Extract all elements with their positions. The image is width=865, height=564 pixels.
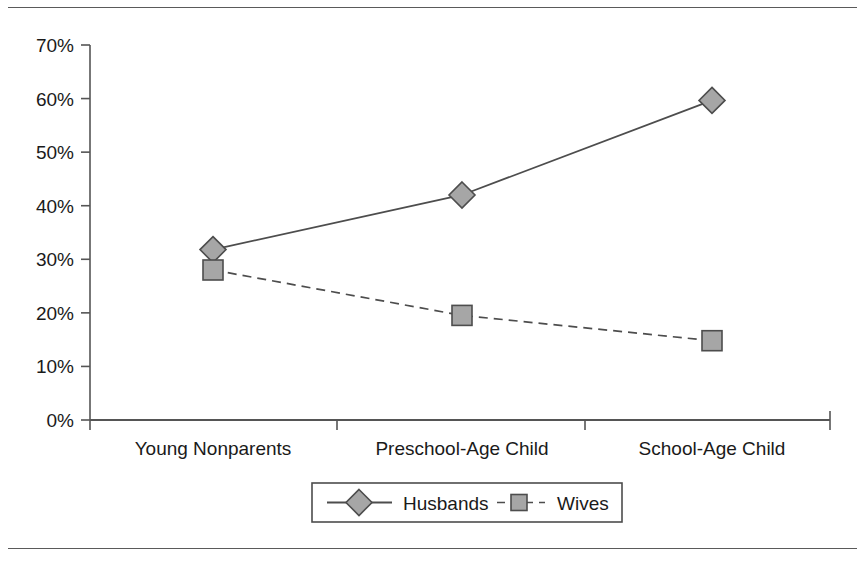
x-tick-label: Preschool-Age Child (375, 438, 548, 459)
husbands-line (213, 100, 712, 249)
y-tick-label: 40% (36, 196, 74, 217)
husbands-point-marker (449, 182, 475, 208)
series-wives (203, 260, 722, 351)
wives-point-marker (203, 260, 223, 280)
chart-legend: Husbands Wives (312, 483, 622, 522)
y-tick-label: 70% (36, 35, 74, 56)
y-tick-label: 60% (36, 89, 74, 110)
y-tick-label: 10% (36, 356, 74, 377)
y-tick-label: 30% (36, 249, 74, 270)
y-tick-label: 0% (47, 410, 75, 431)
x-tick-label: Young Nonparents (135, 438, 292, 459)
wives-point-marker (452, 305, 472, 325)
line-chart: 70% 60% 50% 40% 30% 20% 10% 0% Young Non… (0, 0, 865, 564)
legend-label-wives: Wives (557, 493, 609, 514)
x-axis-ticks (90, 420, 830, 430)
x-axis-category-labels: Young Nonparents Preschool-Age Child Sch… (135, 438, 786, 459)
y-axis-tick-labels: 70% 60% 50% 40% 30% 20% 10% 0% (36, 35, 74, 431)
y-tick-label: 20% (36, 303, 74, 324)
legend-label-husbands: Husbands (403, 493, 489, 514)
y-tick-label: 50% (36, 142, 74, 163)
y-axis-ticks (81, 45, 90, 420)
wives-point-marker (702, 331, 722, 351)
x-tick-label: School-Age Child (639, 438, 786, 459)
husbands-point-marker (699, 87, 725, 113)
chart-figure: 70% 60% 50% 40% 30% 20% 10% 0% Young Non… (0, 0, 865, 564)
husbands-point-marker (200, 237, 226, 263)
series-husbands (200, 87, 725, 262)
legend-square-marker (511, 495, 527, 511)
